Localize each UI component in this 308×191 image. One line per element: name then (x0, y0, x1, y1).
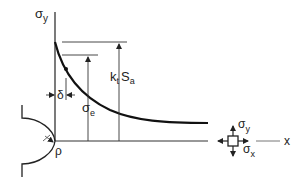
x-axis-label: x (284, 134, 290, 148)
notch-profile (22, 105, 55, 177)
element-sigma-y-label: σy (238, 117, 250, 134)
delta-label: δ (57, 88, 64, 102)
notch-center-mark (43, 135, 50, 141)
curve-point-marker (64, 67, 68, 71)
peak-stress-label: ktSa (110, 69, 135, 86)
sigma-e-label: σe (82, 100, 95, 118)
notch-radius-line (45, 136, 53, 142)
element-sigma-x-label: σx (243, 142, 255, 159)
rho-label: ρ (55, 144, 62, 158)
notch-stress-diagram: σy ktSa σe δ ρ σy σx x (0, 0, 308, 191)
y-axis-label: σy (35, 6, 48, 24)
stress-element-square (228, 136, 238, 146)
